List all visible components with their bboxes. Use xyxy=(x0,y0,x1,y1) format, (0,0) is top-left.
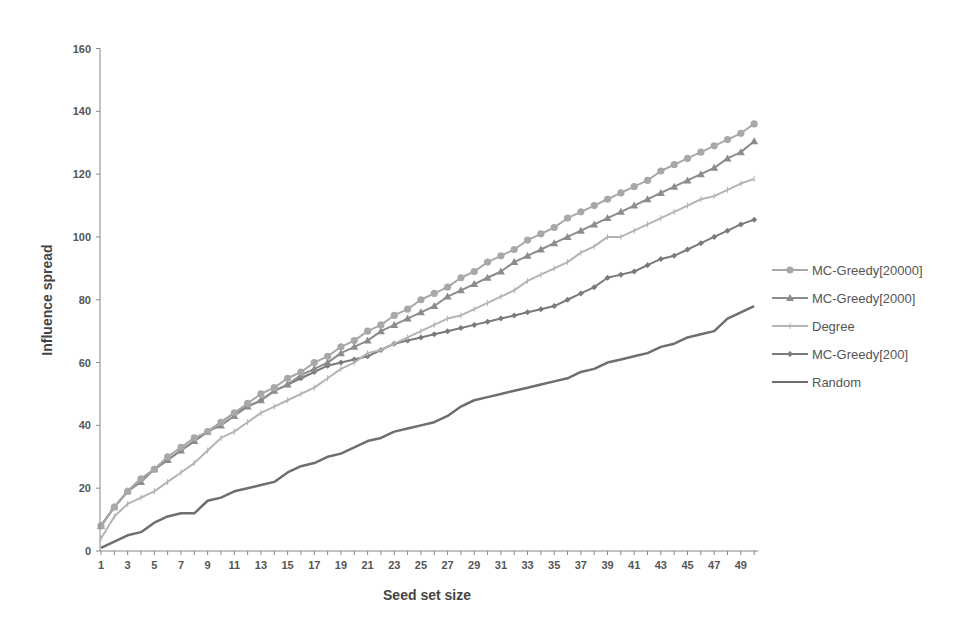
y-tick-label: 160 xyxy=(73,43,91,55)
diamond-marker xyxy=(787,351,793,357)
diamond-marker xyxy=(418,334,424,340)
series-mc-greedy-20000- xyxy=(97,120,757,529)
x-tick-label: 27 xyxy=(441,559,453,571)
series-line xyxy=(101,141,754,526)
x-tick-label: 33 xyxy=(521,559,533,571)
circle-marker xyxy=(671,161,678,168)
x-tick-label: 9 xyxy=(205,559,211,571)
series-line xyxy=(101,220,754,526)
axes: 0204060801001201401601357911131517192123… xyxy=(73,43,759,572)
circle-marker xyxy=(377,321,384,328)
diamond-marker xyxy=(698,240,704,246)
x-tick-label: 37 xyxy=(575,559,587,571)
x-tick-label: 39 xyxy=(601,559,613,571)
x-tick-label: 5 xyxy=(151,559,157,571)
diamond-marker xyxy=(431,331,437,337)
diamond-marker xyxy=(511,312,517,318)
circle-marker xyxy=(431,290,438,297)
series-line xyxy=(101,124,754,526)
circle-marker xyxy=(511,246,518,253)
circle-marker xyxy=(151,466,158,473)
diamond-marker xyxy=(725,228,731,234)
x-tick-label: 35 xyxy=(548,559,560,571)
legend-label: MC-Greedy[20000] xyxy=(812,263,923,278)
diamond-marker xyxy=(645,262,651,268)
circle-marker xyxy=(417,296,424,303)
diamond-marker xyxy=(471,322,477,328)
circle-marker xyxy=(111,503,118,510)
circle-marker xyxy=(191,434,198,441)
circle-marker xyxy=(217,419,224,426)
circle-marker xyxy=(551,224,558,231)
diamond-marker xyxy=(711,234,717,240)
x-tick-label: 29 xyxy=(468,559,480,571)
diamond-marker xyxy=(445,328,451,334)
circle-marker xyxy=(737,130,744,137)
x-tick-label: 1 xyxy=(98,559,104,571)
circle-marker xyxy=(724,136,731,143)
circle-marker xyxy=(457,274,464,281)
circle-marker xyxy=(311,359,318,366)
legend-label: Random xyxy=(812,375,861,390)
circle-marker xyxy=(364,328,371,335)
x-tick-label: 47 xyxy=(708,559,720,571)
diamond-marker xyxy=(538,306,544,312)
legend-label: MC-Greedy[2000] xyxy=(812,291,915,306)
y-axis-title: Influence spread xyxy=(39,244,55,355)
legend-item: MC-Greedy[20000] xyxy=(770,256,923,284)
diamond-marker xyxy=(685,247,691,253)
x-tick-label: 13 xyxy=(255,559,267,571)
diamond-marker xyxy=(631,268,637,274)
x-tick-label: 21 xyxy=(361,559,373,571)
circle-marker xyxy=(97,522,104,529)
legend-swatch-icon xyxy=(770,375,810,389)
legend-label: MC-Greedy[200] xyxy=(812,347,908,362)
x-axis-title: Seed set size xyxy=(383,587,471,603)
y-tick-label: 80 xyxy=(79,294,91,306)
diamond-marker xyxy=(551,303,557,309)
y-tick-label: 0 xyxy=(85,545,91,557)
circle-marker xyxy=(657,167,664,174)
x-tick-label: 7 xyxy=(178,559,184,571)
plot-area xyxy=(97,120,758,548)
circle-marker xyxy=(244,400,251,407)
diamond-marker xyxy=(458,325,464,331)
circle-marker xyxy=(231,409,238,416)
series-degree xyxy=(101,176,754,542)
circle-marker xyxy=(284,375,291,382)
circle-marker xyxy=(537,230,544,237)
series-line xyxy=(101,179,754,539)
legend-item: Degree xyxy=(770,312,923,340)
legend-swatch-icon xyxy=(770,319,810,333)
circle-marker xyxy=(471,268,478,275)
x-tick-label: 25 xyxy=(415,559,427,571)
x-tick-label: 43 xyxy=(655,559,667,571)
legend-label: Degree xyxy=(812,319,855,334)
series-mc-greedy-2000- xyxy=(97,137,758,529)
circle-marker xyxy=(177,444,184,451)
y-tick-label: 40 xyxy=(79,419,91,431)
circle-marker xyxy=(564,214,571,221)
circle-marker xyxy=(204,428,211,435)
circle-marker xyxy=(711,142,718,149)
circle-marker xyxy=(391,312,398,319)
series-line xyxy=(101,306,754,548)
x-tick-label: 11 xyxy=(228,559,240,571)
circle-marker xyxy=(404,306,411,313)
circle-marker xyxy=(751,120,758,127)
x-tick-label: 23 xyxy=(388,559,400,571)
legend-item: MC-Greedy[2000] xyxy=(770,284,923,312)
circle-marker xyxy=(137,475,144,482)
x-tick-label: 17 xyxy=(308,559,320,571)
legend: MC-Greedy[20000]MC-Greedy[2000]DegreeMC-… xyxy=(770,256,923,396)
diamond-marker xyxy=(738,221,744,227)
legend-item: MC-Greedy[200] xyxy=(770,340,923,368)
circle-marker xyxy=(631,183,638,190)
circle-marker xyxy=(617,189,624,196)
circle-marker xyxy=(444,284,451,291)
legend-swatch-icon xyxy=(770,263,810,277)
circle-marker xyxy=(484,258,491,265)
circle-marker xyxy=(604,196,611,203)
legend-swatch-icon xyxy=(770,347,810,361)
circle-marker xyxy=(124,488,131,495)
